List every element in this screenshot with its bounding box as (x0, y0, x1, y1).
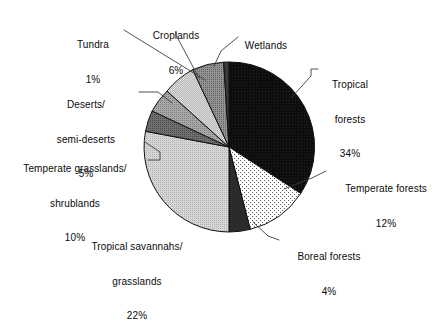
pie-label-wetlands: Wetlands 6% (232, 17, 300, 109)
pie-label-deserts-line2: semi-deserts (32, 134, 140, 146)
pie-label-croplands-percent: 6% (140, 65, 212, 77)
pie-label-temperate-forests-name: Temperate forests (328, 183, 444, 195)
pie-label-boreal-forests-percent: 4% (281, 286, 377, 298)
pie-label-boreal-forests-name: Boreal forests (281, 251, 377, 263)
pie-slice-tropical-savannahs (144, 131, 229, 232)
pie-label-tropical-savannahs-line2: grasslands (62, 276, 212, 288)
pie-label-wetlands-name: Wetlands (232, 40, 300, 52)
pie-label-temperate-grasslands-percent: 10% (2, 232, 148, 244)
pie-label-wetlands-percent: 6% (232, 75, 300, 87)
pie-label-boreal-forests: Boreal forests 4% (281, 228, 377, 320)
pie-label-croplands-name: Croplands (140, 30, 212, 42)
pie-label-tropical-forests-percent: 34% (318, 148, 382, 160)
pie-label-deserts-percent: 5% (32, 168, 140, 180)
pie-label-tropical-forests-line2: forests (318, 114, 382, 126)
pie-label-deserts: Deserts/ semi-deserts 5% (32, 76, 140, 203)
pie-label-tropical-forests-line1: Tropical (318, 79, 382, 91)
pie-label-tundra-name: Tundra (62, 39, 124, 51)
pie-label-tropical-savannahs-percent: 22% (62, 310, 212, 322)
pie-label-deserts-line1: Deserts/ (32, 99, 140, 111)
pie-label-croplands: Croplands 6% (140, 7, 212, 99)
